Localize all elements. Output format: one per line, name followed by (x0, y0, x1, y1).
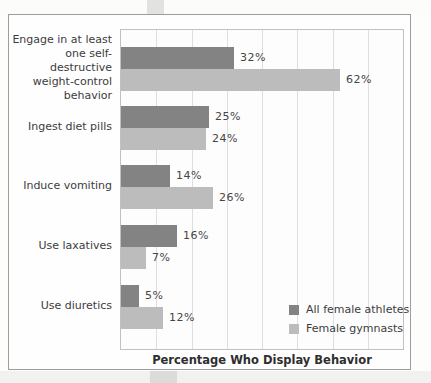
bar-value-label: 26% (219, 187, 245, 209)
bar-all-female-athletes (121, 225, 177, 247)
page-background-bottom (0, 371, 431, 383)
page-binding-band-bottom (150, 371, 177, 383)
bar-value-label: 62% (346, 69, 372, 91)
legend-item-female-gymnasts: Female gymnasts (289, 322, 409, 335)
legend: All female athletes Female gymnasts (289, 303, 409, 335)
bar-value-label: 25% (215, 106, 241, 128)
category-label-line: Use diuretics (41, 299, 112, 313)
bar-value-label: 14% (176, 165, 202, 187)
bar-all-female-athletes (121, 106, 209, 128)
bar-female-gymnasts (121, 187, 213, 209)
bar-female-gymnasts (121, 307, 163, 329)
category-label-line: Induce vomiting (23, 179, 112, 193)
plot-area: 32%62%25%24%14%26%16%7%5%12% (120, 29, 404, 350)
category-label-line: Engage in at least (12, 33, 112, 47)
bar-value-label: 16% (183, 225, 209, 247)
category-label-line: one self-destructive (9, 47, 112, 75)
category-label-line: Ingest diet pills (28, 120, 112, 134)
bar-female-gymnasts (121, 247, 146, 269)
category-label: Induce vomiting (9, 158, 112, 214)
legend-label: All female athletes (306, 303, 409, 316)
legend-label: Female gymnasts (306, 322, 403, 335)
figure-card: 32%62%25%24%14%26%16%7%5%12% All female … (8, 14, 411, 370)
legend-swatch-dark-icon (289, 305, 299, 315)
category-label: Use diuretics (9, 278, 112, 334)
legend-swatch-light-icon (289, 324, 299, 334)
bar-all-female-athletes (121, 165, 170, 187)
category-label-line: Use laxatives (39, 239, 112, 253)
page-binding-band-top (147, 0, 164, 14)
category-label: Use laxatives (9, 218, 112, 274)
bar-value-label: 12% (169, 307, 195, 329)
bar-value-label: 32% (240, 47, 266, 69)
bar-female-gymnasts (121, 128, 206, 150)
bar-chart: 32%62%25%24%14%26%16%7%5%12% All female … (9, 15, 410, 369)
category-label-line: weight-control (33, 75, 112, 89)
x-axis-title: Percentage Who Display Behavior (120, 353, 404, 367)
bar-value-label: 7% (152, 247, 170, 269)
page-background-top (0, 0, 431, 14)
legend-item-all-female-athletes: All female athletes (289, 303, 409, 316)
bar-all-female-athletes (121, 47, 234, 69)
scanned-page: 32%62%25%24%14%26%16%7%5%12% All female … (0, 0, 431, 383)
bar-female-gymnasts (121, 69, 340, 91)
bar-all-female-athletes (121, 285, 139, 307)
bar-value-label: 5% (145, 285, 163, 307)
category-label: Engage in at leastone self-destructivewe… (9, 40, 112, 96)
category-label: Ingest diet pills (9, 99, 112, 155)
bar-value-label: 24% (212, 128, 238, 150)
